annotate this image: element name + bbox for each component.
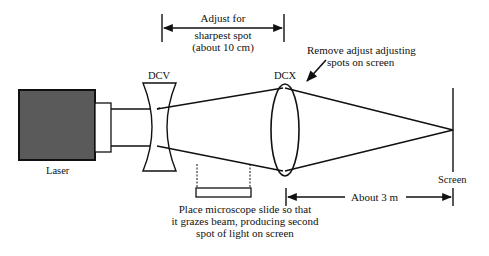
screen-label: Screen bbox=[438, 174, 467, 186]
dcx-lens bbox=[271, 84, 299, 176]
remove-label: Remove adjust adjusting spots on screen bbox=[307, 44, 416, 68]
remove-line-1: Remove adjust adjusting bbox=[307, 44, 416, 56]
dcx-label: DCX bbox=[274, 70, 296, 82]
slide-line-2: it grazes beam, producing second bbox=[140, 215, 350, 227]
adjust-line-3: (about 10 cm) bbox=[178, 41, 268, 53]
adjust-line-1: Adjust for bbox=[178, 12, 268, 24]
distance-label: About 3 m bbox=[351, 191, 398, 203]
laser-label: Laser bbox=[46, 165, 69, 177]
adjust-line-2: sharpest spot bbox=[178, 29, 268, 41]
slide-line-1: Place microscope slide so that bbox=[140, 203, 350, 215]
dcv-label: DCV bbox=[148, 70, 170, 82]
converging-beam bbox=[285, 88, 453, 171]
remove-line-2: spots on screen bbox=[307, 56, 416, 68]
slide-line-3: spot of light on screen bbox=[140, 227, 350, 239]
laser-beam bbox=[111, 109, 157, 146]
dcv-lens bbox=[143, 83, 176, 171]
adjust-label: Adjust for sharpest spot (about 10 cm) bbox=[178, 12, 268, 53]
microscope-slide bbox=[196, 164, 251, 197]
laser bbox=[19, 90, 111, 160]
slide-instruction: Place microscope slide so that it grazes… bbox=[140, 203, 350, 239]
diverging-beam bbox=[157, 88, 283, 171]
